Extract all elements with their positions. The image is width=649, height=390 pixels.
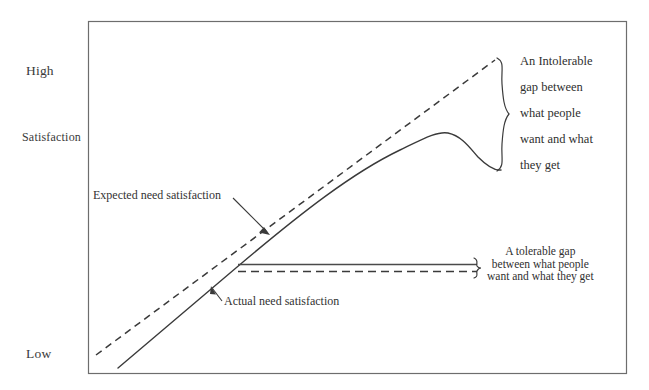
diagram-canvas: High Satisfaction Low Expected need sati… [0,0,649,390]
intolerable-gap-line-5: they get [520,159,593,185]
intolerable-gap-line-1: An Intolerable [520,55,593,81]
actual-need-label: Actual need satisfaction [224,294,339,309]
intolerable-gap-line-3: what people [520,107,593,133]
intolerable-gap-line-2: gap between [520,81,593,107]
axis-label-high: High [26,63,54,79]
tolerable-gap-line-1: A tolerable gap [487,245,594,258]
actual-need-arrow [210,286,222,301]
tolerable-gap-line-3: want and what they get [487,270,594,283]
intolerable-gap-brace [497,58,509,171]
actual-need-curve [118,133,501,368]
tolerable-gap-line-2: between what people [487,258,594,271]
tolerable-gap-brace [474,258,481,278]
expected-need-line [96,60,495,355]
intolerable-gap-callout: An Intolerable gap between what people w… [520,55,593,185]
tolerable-gap-callout: A tolerable gap between what people want… [487,245,594,283]
intolerable-gap-line-4: want and what [520,133,593,159]
axis-label-low: Low [26,346,51,362]
expected-need-arrow [233,198,270,235]
axis-label-satisfaction: Satisfaction [22,130,81,145]
expected-need-label: Expected need satisfaction [93,188,221,203]
